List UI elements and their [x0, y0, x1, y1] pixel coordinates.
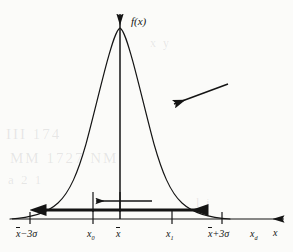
- xd-subscript: d: [254, 234, 257, 241]
- lower-limit-offset: −3σ: [20, 228, 37, 239]
- x-axis-label: x: [273, 227, 277, 238]
- x1-subscript: 1: [170, 234, 173, 241]
- tick-label-mean: x: [116, 228, 120, 239]
- upper-limit-offset: +3σ: [212, 228, 229, 239]
- x0-subscript: 0: [91, 234, 94, 241]
- distribution-plot: [0, 0, 293, 252]
- tick-label-upper-limit: x+3σ: [208, 228, 229, 239]
- tick-label-x1: x1: [166, 228, 174, 241]
- axis-ticks: [30, 210, 222, 224]
- gaussian-distribution-figure: III 174 MM 1727 NM a 2 1 x y l i: [0, 0, 293, 252]
- tick-label-x0: x0: [87, 228, 95, 241]
- tick-label-lower-limit: x−3σ: [16, 228, 37, 239]
- callout-pointer-arrow: [174, 84, 228, 104]
- x-bar-glyph-mean: x: [116, 228, 120, 239]
- x-bar-glyph-upper: x: [208, 228, 212, 239]
- tick-label-xd: xd: [250, 228, 258, 241]
- curve-function-label: f(x): [131, 15, 146, 27]
- x-bar-glyph: x: [16, 228, 20, 239]
